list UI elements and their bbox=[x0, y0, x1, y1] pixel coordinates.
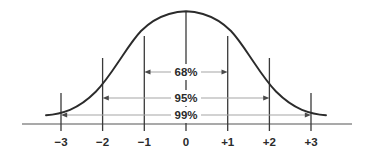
tick-label-minus-3: −3 bbox=[54, 136, 67, 148]
tick-label-plus-1: +1 bbox=[221, 136, 235, 148]
tick-label-minus-2: −2 bbox=[96, 136, 109, 148]
interval-68-left-arrow-icon bbox=[144, 69, 150, 74]
interval-68-right-arrow-icon bbox=[222, 69, 228, 74]
x-axis-tick-labels: −3 −2 −1 0 +1 +2 +3 bbox=[54, 136, 317, 148]
interval-95-left-arrow-icon bbox=[103, 95, 109, 100]
chart-canvas: 68% 95% 99% −3 −2 −1 0 +1 +2 +3 bbox=[0, 0, 367, 158]
interval-68-label: 68% bbox=[174, 66, 197, 78]
tick-label-minus-1: −1 bbox=[138, 136, 152, 148]
tick-label-zero: 0 bbox=[183, 136, 189, 148]
interval-95-right-arrow-icon bbox=[263, 95, 269, 100]
interval-99-label: 99% bbox=[174, 109, 197, 121]
tick-label-plus-2: +2 bbox=[263, 136, 276, 148]
interval-99-group: 99% bbox=[61, 107, 311, 123]
interval-95-group: 95% bbox=[103, 90, 270, 106]
interval-95-label: 95% bbox=[174, 92, 197, 104]
tick-label-plus-3: +3 bbox=[304, 136, 317, 148]
normal-distribution-chart: 68% 95% 99% −3 −2 −1 0 +1 +2 +3 bbox=[0, 0, 367, 158]
interval-68-group: 68% bbox=[144, 64, 227, 80]
